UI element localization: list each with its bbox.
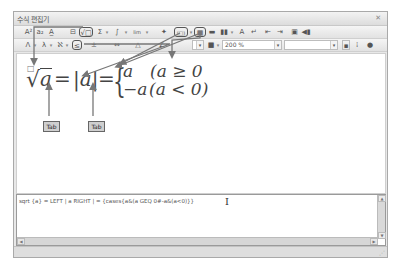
- scroll-down-icon[interactable]: ▼: [378, 232, 386, 239]
- symbol-toolbar: Λ ▾ λ ▾ ℵ ▾ ≤ ± ⇔ △ ∠ ▾ ■ ▾ 200 %▾ ▾ ▪ ⁞…: [14, 39, 387, 52]
- help-icon[interactable]: ●: [366, 40, 374, 50]
- case1-expression: a: [123, 61, 133, 81]
- greek-capital-button[interactable]: Λ: [24, 40, 32, 50]
- bracket-dropdown-icon[interactable]: ▾: [189, 27, 193, 37]
- case1-condition: (a ≥ 0: [150, 61, 203, 81]
- limit-dropdown-icon[interactable]: ▾: [145, 27, 149, 37]
- main-toolbar: A² a₂ A̲ ⊟ √□ Σ ▾ ∫ □ ▾ lim ▾ ✦ (□) ▾ ▦ …: [14, 26, 387, 39]
- hebrew-dropdown-icon[interactable]: ▾: [65, 40, 69, 50]
- scroll-up-icon[interactable]: ▲: [378, 195, 386, 202]
- base-script-button[interactable]: A̲: [47, 27, 56, 37]
- case2-expression: −a: [123, 79, 147, 99]
- limit-button[interactable]: lim: [131, 27, 143, 37]
- layout-button[interactable]: ▪: [342, 40, 350, 50]
- zoom-value: 200 %: [225, 41, 244, 48]
- tab-annotation: Tab: [43, 121, 60, 132]
- absolute-value: |a|: [73, 67, 98, 91]
- text-cursor-icon: I: [225, 196, 229, 207]
- logic-button[interactable]: △: [134, 40, 142, 50]
- sum-dropdown-icon[interactable]: ▾: [105, 27, 109, 37]
- close-icon[interactable]: ✕: [375, 14, 381, 22]
- subscript-button[interactable]: a₂: [35, 27, 45, 37]
- color-dropdown-icon[interactable]: ▾: [216, 40, 220, 50]
- align-left-button[interactable]: ⇤: [264, 27, 272, 37]
- bracket-button[interactable]: (□): [174, 27, 188, 37]
- align-right-button[interactable]: ⇥: [276, 27, 284, 37]
- color-button[interactable]: ■: [207, 40, 215, 50]
- matrix-button[interactable]: ▦: [194, 27, 206, 37]
- operator-button[interactable]: ±: [90, 40, 98, 50]
- script-editor[interactable]: sqrt {a} = LEFT | a RIGHT | = {cases{a&(…: [16, 194, 386, 246]
- row-button[interactable]: ▬: [208, 27, 216, 37]
- integral-dropdown-icon[interactable]: ▾: [124, 27, 128, 37]
- arrow-button[interactable]: ⇔: [112, 40, 122, 50]
- font-button[interactable]: A: [238, 27, 246, 37]
- root-button[interactable]: √□: [79, 27, 93, 37]
- resize-grip-icon[interactable]: ⋰: [379, 249, 385, 256]
- fraction-button[interactable]: ⊟: [69, 27, 77, 37]
- horizontal-scrollbar[interactable]: ◀ ▶: [17, 237, 378, 245]
- equals-sign: =: [54, 67, 71, 91]
- style-combo[interactable]: ▾: [192, 40, 204, 50]
- save-button[interactable]: ▣: [290, 27, 299, 37]
- chevron-down-icon[interactable]: ▾: [196, 41, 203, 49]
- insert-button[interactable]: ◀▮: [301, 27, 311, 37]
- spacing-button[interactable]: ⁞: [353, 40, 361, 50]
- radicand: a: [40, 68, 52, 89]
- scroll-right-icon[interactable]: ▶: [370, 238, 378, 245]
- title-bar: 수식 편집기 ✕: [14, 12, 387, 26]
- formula-canvas[interactable]: □ √ a = |a| = { a (a ≥ 0 −a (a < 0) Tab …: [16, 53, 386, 194]
- column-dropdown-icon[interactable]: ▾: [230, 27, 234, 37]
- vertical-scrollbar[interactable]: ▲ ▼: [377, 195, 385, 239]
- scroll-left-icon[interactable]: ◀: [17, 238, 25, 245]
- radical-sign: √: [26, 67, 40, 92]
- font-select[interactable]: ▾: [284, 40, 338, 50]
- misc-button[interactable]: ∠: [158, 40, 166, 50]
- tab-annotation: Tab: [88, 121, 105, 132]
- superscript-button[interactable]: A²: [24, 27, 33, 37]
- decoration-button[interactable]: ✦: [159, 27, 169, 37]
- window-title: 수식 편집기: [17, 14, 49, 24]
- integral-button[interactable]: ∫ □: [112, 27, 122, 37]
- chevron-down-icon[interactable]: ▾: [330, 41, 337, 49]
- case2-condition: (a < 0): [149, 79, 208, 99]
- column-button[interactable]: ▮▮: [219, 27, 229, 37]
- status-bar: ⋰: [14, 246, 387, 257]
- equation-editor-window: 수식 편집기 ✕ A² a₂ A̲ ⊟ √□ Σ ▾ ∫ □ ▾ lim ▾ ✦…: [13, 11, 388, 258]
- greek-lower-button[interactable]: λ: [40, 40, 48, 50]
- greek-lower-dropdown-icon[interactable]: ▾: [49, 40, 53, 50]
- relation-button[interactable]: ≤: [72, 40, 82, 50]
- chevron-down-icon[interactable]: ▾: [274, 41, 281, 49]
- zoom-select[interactable]: 200 %▾: [222, 40, 282, 50]
- sum-button[interactable]: Σ: [96, 27, 104, 37]
- greek-capital-dropdown-icon[interactable]: ▾: [33, 40, 37, 50]
- newline-button[interactable]: ↵: [250, 27, 258, 37]
- hebrew-button[interactable]: ℵ: [56, 40, 64, 50]
- script-text[interactable]: sqrt {a} = LEFT | a RIGHT | = {cases{a&(…: [19, 198, 194, 204]
